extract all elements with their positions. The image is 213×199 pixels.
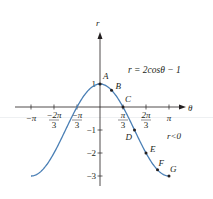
point-f-label: F: [158, 158, 165, 168]
theta-tick-label-denominator: 3: [52, 120, 57, 130]
point-g-marker: [168, 175, 171, 178]
region-label-r-negative: r<0: [167, 131, 182, 141]
r-axis-arrow-icon: [98, 32, 103, 39]
point-f-marker: [156, 168, 159, 171]
r-tick-label: −2: [86, 148, 96, 158]
point-d-marker: [133, 129, 136, 132]
polar-function-graph: −π−2π3−π3π32π3π 1−1−2−3 ABCDEFG r θ r = …: [0, 0, 213, 199]
theta-axis-arrow-icon: [179, 105, 186, 110]
theta-axis-label: θ: [188, 103, 193, 113]
labeled-points: ABCDEFG: [99, 71, 178, 178]
r-tick-label: −1: [86, 125, 96, 135]
point-g-label: G: [170, 164, 177, 174]
theta-tick-label: −π: [26, 113, 37, 123]
point-b-label: B: [116, 81, 122, 91]
r-tick-label: −3: [86, 171, 96, 181]
point-a-label: A: [102, 71, 109, 81]
theta-tick-label: π: [167, 113, 172, 123]
point-a-marker: [99, 83, 102, 86]
point-e-marker: [145, 152, 148, 155]
theta-tick-label-denominator: 3: [121, 120, 126, 130]
theta-ticks: −π−2π3−π3π32π3π: [26, 105, 172, 131]
point-c-label: C: [125, 94, 132, 104]
point-d-label: D: [125, 132, 133, 142]
r-axis-label: r: [96, 18, 100, 28]
theta-tick-label-numerator: 2π: [141, 110, 151, 120]
point-e-label: E: [149, 144, 156, 154]
point-b-marker: [110, 89, 113, 92]
equation-label: r = 2cosθ − 1: [128, 65, 181, 75]
theta-tick-label-denominator: 3: [144, 120, 149, 130]
theta-tick-label-denominator: 3: [75, 120, 80, 130]
point-c-marker: [122, 106, 125, 109]
theta-tick-label-numerator: −2π: [46, 110, 62, 120]
